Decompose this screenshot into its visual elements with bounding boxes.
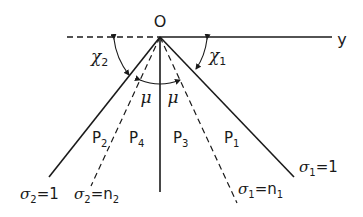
region-p1-label: P1 <box>224 129 239 149</box>
region-p3-label: P3 <box>173 129 188 149</box>
y-axis-label: y <box>337 30 346 49</box>
wedge-diagram: O y χ2 χ1 μ μ P2 <box>0 0 363 217</box>
chi1-angle-arc <box>196 39 207 69</box>
chi2-label: χ2 <box>90 46 108 69</box>
sigma1-eq-n1-label: σ1=n1 <box>238 180 283 200</box>
region-p4-label: P4 <box>129 129 144 149</box>
sigma2-eq-n2-label: σ2=n2 <box>74 185 119 205</box>
line-sigma1-eq-1 <box>160 37 294 177</box>
region-p2-label: P2 <box>92 129 107 149</box>
sigma1-eq-1-label: σ1=1 <box>299 158 338 178</box>
mu-left-label: μ <box>140 87 151 107</box>
origin-label: O <box>154 12 167 31</box>
chi1-label: χ1 <box>208 45 226 68</box>
chi2-angle-arc <box>114 39 129 75</box>
sigma2-eq-1-label: σ2=1 <box>20 185 59 205</box>
mu-right-label: μ <box>167 87 178 107</box>
